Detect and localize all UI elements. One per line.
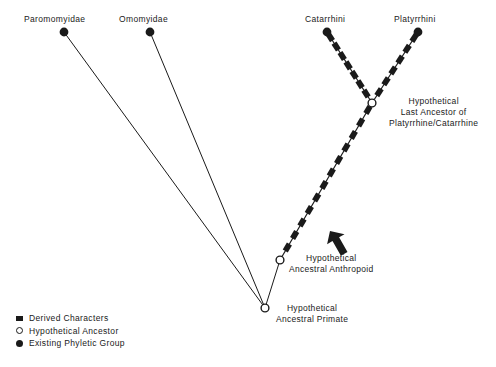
derived-character-marker <box>402 44 411 54</box>
node-label-line: Ancestral Anthropoid <box>289 264 373 275</box>
node-label-line: Hypothetical <box>289 253 373 264</box>
legend-item-label: Hypothetical Ancestor <box>29 326 119 336</box>
tip-label-omomyidae: Omomyidae <box>119 14 168 24</box>
derived-character-marker <box>290 230 299 240</box>
tip-node-catarrhini <box>323 28 332 37</box>
tip-node-paromomyidae <box>60 28 69 37</box>
node-label-line: Hypothetical <box>389 96 478 107</box>
legend-item-label: Existing Phyletic Group <box>29 338 125 348</box>
hypothetical-ancestor-icon <box>16 327 29 334</box>
branch-fork-to-platyrrhini <box>372 32 419 103</box>
derived-character-marker <box>312 192 321 202</box>
tip-node-omomyidae <box>146 28 155 37</box>
node-label-line: Ancestral Primate <box>276 314 348 325</box>
derived-character-marker <box>332 42 341 52</box>
node-label-line: Platyrrhine/Catarrhine <box>389 118 478 129</box>
derived-characters-icon <box>16 316 29 321</box>
derived-character-marker <box>395 55 404 65</box>
tip-node-platyrrhini <box>414 28 423 37</box>
internal-node-ancestral-primate <box>261 304 269 312</box>
derived-character-marker <box>361 89 370 99</box>
branch-root-to-paromomyidae <box>64 32 265 308</box>
annotation-arrow-icon <box>327 231 347 256</box>
tip-label-catarrhini: Catarrhini <box>305 14 345 24</box>
derived-character-marker <box>341 142 350 152</box>
branch-fork-to-catarrhini <box>326 32 372 103</box>
internal-node-last-ancestor-platyrrhine-catarrhine <box>368 99 376 107</box>
derived-character-marker <box>297 217 306 227</box>
derived-character-marker <box>349 130 358 140</box>
derived-character-marker <box>344 60 353 70</box>
branch-line <box>64 32 265 308</box>
node-label-ancestral-primate: HypotheticalAncestral Primate <box>276 303 348 325</box>
arrow-layer <box>327 231 347 256</box>
existing-phyletic-group-icon <box>16 340 29 347</box>
node-label-ancestral-anthropoid: HypotheticalAncestral Anthropoid <box>289 253 373 275</box>
legend-item-hypothetical-ancestor: Hypothetical Ancestor <box>16 325 125 338</box>
derived-character-marker <box>305 205 314 215</box>
node-label-line: Last Ancestor of <box>389 107 478 118</box>
branch-line <box>150 32 265 308</box>
legend-item-label: Derived Characters <box>29 313 109 323</box>
tip-label-paromomyidae: Paromomyidae <box>24 14 85 24</box>
derived-character-marker <box>355 79 364 89</box>
branch-root-to-anthropoid <box>265 260 280 308</box>
derived-character-marker <box>334 155 343 165</box>
derived-character-marker <box>327 167 336 177</box>
legend-item-derived-characters: Derived Characters <box>16 312 125 325</box>
derived-character-marker <box>338 51 347 61</box>
branch-root-to-omomyidae <box>150 32 265 308</box>
derived-character-marker <box>356 117 365 127</box>
derived-character-marker <box>374 87 383 97</box>
branch-anthropoid-to-fork <box>280 103 373 260</box>
tip-label-platyrrhini: Platyrrhini <box>394 14 436 24</box>
derived-character-marker <box>388 65 397 75</box>
derived-character-marker <box>381 76 390 86</box>
cladogram-figure: ParomomyidaeOmomyidaeCatarrhiniPlatyrrhi… <box>0 0 496 367</box>
derived-character-marker <box>283 242 292 252</box>
node-label-last-ancestor-platyrrhine-catarrhine: HypotheticalLast Ancestor ofPlatyrrhine/… <box>389 96 478 129</box>
derived-character-marker <box>319 180 328 190</box>
derived-character-marker <box>349 70 358 80</box>
legend: Derived Characters Hypothetical Ancestor… <box>16 312 125 350</box>
branch-line <box>265 260 280 308</box>
internal-node-ancestral-anthropoid <box>276 256 284 264</box>
legend-item-existing-phyletic-group: Existing Phyletic Group <box>16 337 125 350</box>
node-label-line: Hypothetical <box>276 303 348 314</box>
